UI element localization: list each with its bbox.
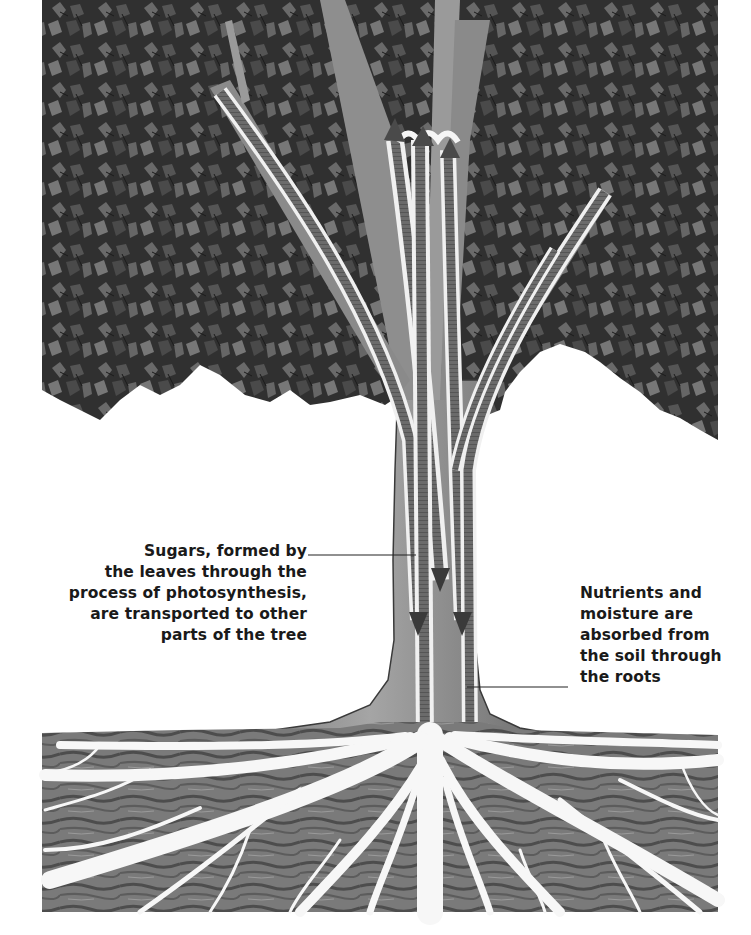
- tree-illustration: [0, 0, 751, 935]
- nutrients-label-line: absorbed from: [580, 625, 722, 646]
- tree-diagram: Sugars, formed by the leaves through the…: [0, 0, 751, 935]
- sugars-label-line: are transported to other: [69, 604, 307, 625]
- nutrients-label-line: moisture are: [580, 604, 722, 625]
- sugars-label-line: the leaves through the: [69, 562, 307, 583]
- nutrients-label: Nutrients and moisture are absorbed from…: [580, 583, 722, 688]
- nutrients-label-line: Nutrients and: [580, 583, 722, 604]
- sugars-label-line: Sugars, formed by: [69, 541, 307, 562]
- nutrients-label-line: the soil through: [580, 646, 722, 667]
- sugars-label-line: parts of the tree: [69, 625, 307, 646]
- sugars-label: Sugars, formed by the leaves through the…: [69, 541, 307, 646]
- sugars-label-line: process of photosynthesis,: [69, 583, 307, 604]
- nutrients-label-line: the roots: [580, 667, 722, 688]
